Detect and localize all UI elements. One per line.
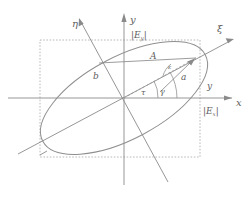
svg-text:|Ey|: |Ey| — [131, 30, 147, 42]
semi-major-a-label: a — [181, 72, 186, 82]
secondary-y-label: y — [206, 81, 213, 91]
field-x-magnitude-label: |Ex| — [203, 106, 219, 117]
chord-A-label: A — [149, 51, 157, 61]
angle-tau-arc — [154, 81, 158, 98]
semi-minor-b-label: b — [93, 71, 99, 81]
y-axis-label: y — [129, 14, 136, 25]
field-y-bar-close: | — [144, 30, 147, 41]
y-axis-arrowhead — [121, 13, 126, 22]
angle-gamma-arc — [170, 72, 177, 98]
diagram-canvas: y x ξ η |Ey| |Ex| y A b a τ γ — [0, 0, 251, 197]
chord-A-line — [99, 58, 196, 63]
lower-left-tangency-mark — [40, 151, 47, 155]
xi-axis-label: ξ — [217, 23, 223, 34]
eta-axis-line — [81, 22, 168, 182]
angle-gamma-label: γ — [160, 87, 165, 96]
eta-axis-label: η — [72, 18, 78, 29]
x-axis-label: x — [236, 97, 242, 108]
angle-tau-label: τ — [141, 88, 146, 97]
field-x-bar-close: | — [216, 106, 219, 117]
angle-epsilon-label: ε — [168, 63, 171, 70]
field-x-bar-open: |E — [203, 106, 213, 117]
polarization-ellipse-figure: y x ξ η |Ey| |Ex| y A b a τ γ — [0, 0, 251, 197]
svg-text:|Ex|: |Ex| — [203, 106, 219, 117]
field-y-bar-open: |E — [131, 30, 141, 41]
x-axis-arrowhead — [224, 95, 232, 100]
amplitude-bounding-box — [40, 40, 200, 157]
field-y-magnitude-label: |Ey| — [131, 30, 147, 42]
